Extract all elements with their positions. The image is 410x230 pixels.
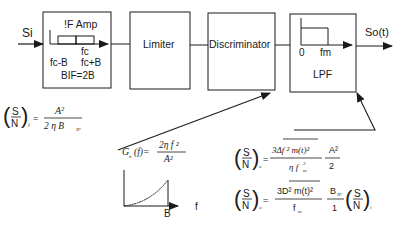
noise-psd-pointer-arrow xyxy=(118,93,270,150)
snr-in-s: S xyxy=(12,106,19,117)
equation-snr-output-1: ( S N ) o = 3Δf ² m(t)² η f m 3 A² 2 xyxy=(234,139,340,173)
snr-out1-s: S xyxy=(243,147,250,158)
output-snr-pointer-arrow xyxy=(294,93,375,130)
snr-out1-sub: o xyxy=(259,164,262,169)
snr-out2-den-sub: m xyxy=(298,209,302,214)
paren-left: ( xyxy=(234,186,242,211)
snr-out2-denominator: f xyxy=(293,203,296,213)
noise-psd-plot: B f xyxy=(124,170,198,219)
snr-out1-den-sub: m xyxy=(303,168,307,173)
limiter-box xyxy=(130,12,190,89)
snr-out2-n: N xyxy=(242,200,249,211)
lpf-fm-label: fm xyxy=(320,47,331,58)
psd-x-label: f xyxy=(195,201,198,212)
snr-out2-rhs-n: N xyxy=(353,200,360,211)
limiter-block: Limiter xyxy=(130,12,190,89)
output-label: So(t) xyxy=(365,26,389,38)
discriminator-title: Discriminator xyxy=(209,38,271,50)
if-amp-block: !F Amp fc fc-B fc+B BIF=2B xyxy=(43,12,111,88)
discriminator-block: Discriminator xyxy=(208,13,275,90)
psd-arg: (f)= xyxy=(134,147,149,158)
fc-minus-b-label: fc-B xyxy=(50,57,68,68)
snr-out2-numerator: 3D² m(t)² xyxy=(277,186,313,196)
snr-out2-s: S xyxy=(243,188,250,199)
snr-out2-rhs-sub: i xyxy=(370,205,372,210)
psd-numerator: 2η f ² xyxy=(159,140,179,150)
lpf-block: 0 fm LPF xyxy=(290,14,356,92)
snr-in-sub: i xyxy=(28,122,30,128)
lpf-title: LPF xyxy=(313,68,332,80)
limiter-title: Limiter xyxy=(143,38,175,50)
lpf-response xyxy=(301,28,328,45)
equation-noise-psd: G n (f)= 2η f ² A² xyxy=(122,140,186,164)
equals-sign: = xyxy=(263,154,268,164)
snr-out2-bif: B xyxy=(330,186,336,196)
snr-in-n: N xyxy=(11,118,18,129)
if-amp-title: !F Amp xyxy=(64,18,97,30)
fc-plus-b-label: fc+B xyxy=(81,57,102,68)
psd-curve xyxy=(124,180,168,206)
snr-in-denominator: 2 η B xyxy=(44,121,64,131)
snr-in-numerator: A² xyxy=(54,105,65,116)
equation-snr-input: ( S N ) i = A² 2 η B IF xyxy=(3,103,82,132)
paren-left: ( xyxy=(234,145,242,170)
equals-sign: = xyxy=(33,113,38,123)
if-passband-right xyxy=(76,36,94,44)
psd-denominator: A² xyxy=(163,154,173,164)
fc-label: fc xyxy=(81,46,89,57)
paren-left: ( xyxy=(3,103,11,128)
input-label: Si xyxy=(22,26,33,40)
snr-in-den-sub: IF xyxy=(75,127,82,132)
snr-out2-sub: o xyxy=(259,205,262,210)
lpf-zero-label: 0 xyxy=(299,47,305,58)
psd-g-sub: n xyxy=(129,154,132,159)
discriminator-box xyxy=(208,13,275,90)
equals-sign: = xyxy=(263,195,268,205)
snr-out2-bif-sub: IF xyxy=(336,192,343,197)
fm-receiver-diagram: Si !F Amp fc fc-B fc+B BIF=2B Limiter Di… xyxy=(0,0,410,230)
snr-out1-factor-den: 2 xyxy=(329,161,334,171)
snr-out2-rhs-s: S xyxy=(354,188,361,199)
bif-label: BIF=2B xyxy=(61,70,95,81)
input-signal: Si xyxy=(18,26,43,44)
equation-snr-output-2: ( S N ) o = 3D² m(t)² f m B IF 1 ( S N )… xyxy=(234,181,372,214)
output-signal: So(t) xyxy=(356,26,392,46)
snr-out1-factor-num: A² xyxy=(329,145,338,155)
snr-out1-n: N xyxy=(242,159,249,170)
snr-out1-numerator: 3Δf ² m(t)² xyxy=(271,145,309,155)
psd-x-tick-b: B xyxy=(164,208,171,219)
snr-out1-denominator: η f xyxy=(289,162,300,172)
if-passband-left xyxy=(58,36,76,44)
snr-out2-one: 1 xyxy=(332,203,337,213)
paren-left: ( xyxy=(345,186,353,211)
snr-out1-den-sup: 3 xyxy=(303,161,306,166)
